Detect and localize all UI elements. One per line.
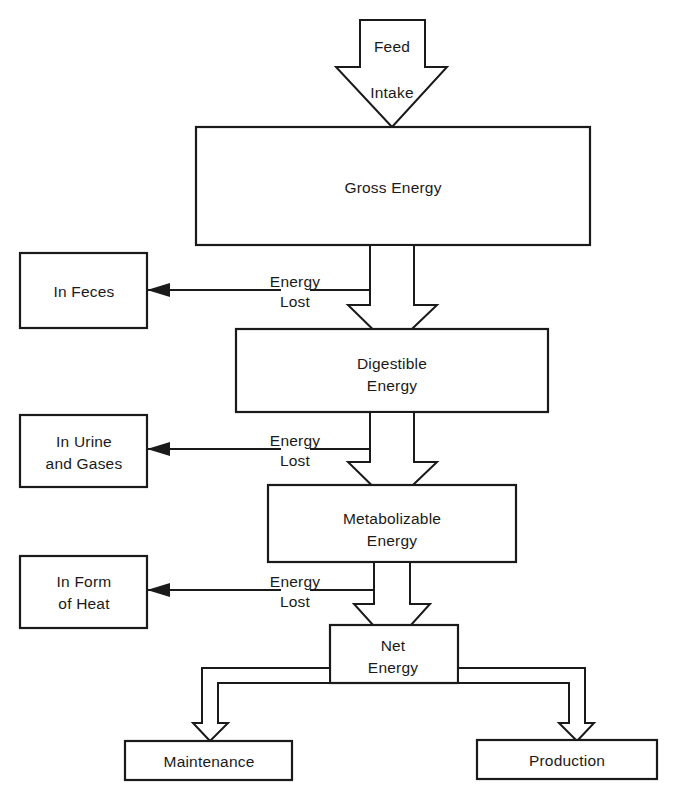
heat-arrowhead bbox=[147, 583, 170, 597]
metabolizable-energy-label-line1: Metabolizable bbox=[343, 509, 441, 528]
urine-loss-label-line2: Lost bbox=[280, 451, 310, 470]
heat-loss-label-line1: Energy bbox=[270, 572, 320, 591]
net-energy-label-line2: Energy bbox=[368, 658, 418, 677]
in-feces-label-line1: In Feces bbox=[53, 282, 114, 301]
feces-loss-label-line1: Energy bbox=[270, 272, 320, 291]
energy-flow-diagram: Feed Intake Gross Energy Energy Lost In … bbox=[0, 0, 677, 791]
gross-energy-label: Gross Energy bbox=[344, 178, 441, 197]
feed-intake-line1: Feed bbox=[374, 37, 410, 56]
net-to-maintenance-arrow-shape bbox=[193, 668, 330, 741]
urine-loss-label-line1: Energy bbox=[270, 431, 320, 450]
digestible-energy-label-line2: Energy bbox=[367, 376, 417, 395]
feces-loss-label-line2: Lost bbox=[280, 292, 310, 311]
in-urine-label-line2: and Gases bbox=[46, 454, 123, 473]
net-to-production-arrow-shape bbox=[458, 668, 594, 741]
in-heat-box-shape bbox=[20, 556, 147, 628]
metabolizable-energy-label-line2: Energy bbox=[367, 531, 417, 550]
in-heat-label-line1: In Form bbox=[57, 572, 112, 591]
production-label: Production bbox=[529, 751, 605, 770]
digestible-energy-label-line1: Digestible bbox=[357, 354, 427, 373]
feces-arrowhead bbox=[147, 283, 170, 297]
in-urine-box-shape bbox=[20, 415, 147, 487]
maintenance-label: Maintenance bbox=[164, 752, 255, 771]
urine-arrowhead bbox=[147, 442, 170, 456]
heat-loss-label-line2: Lost bbox=[280, 592, 310, 611]
flow-graphics bbox=[0, 0, 677, 791]
in-urine-label-line1: In Urine bbox=[56, 432, 112, 451]
feed-intake-line2: Intake bbox=[370, 83, 413, 102]
net-energy-label-line1: Net bbox=[381, 636, 406, 655]
in-heat-label-line2: of Heat bbox=[58, 594, 109, 613]
